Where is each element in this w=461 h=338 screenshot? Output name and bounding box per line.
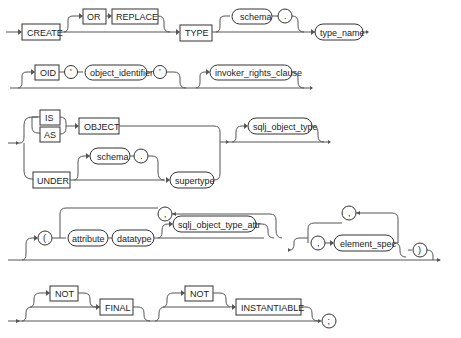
under-schema-label: schema xyxy=(97,152,129,162)
under-label: UNDER xyxy=(37,176,70,186)
create-label: CREATE xyxy=(27,28,63,38)
attribute-label: attribute xyxy=(72,234,105,244)
datatype-label: datatype xyxy=(117,234,152,244)
is-label: IS xyxy=(45,113,54,123)
row-create-type: CREATE OR REPLACE TYPE schema . type_nam… xyxy=(6,9,369,41)
final-label: FINAL xyxy=(105,303,131,313)
elem-comma-loop-label: , xyxy=(348,208,351,218)
attr-comma-loop-label: , xyxy=(164,209,167,219)
under-dot-label: . xyxy=(140,151,143,161)
quote-open-label: ' xyxy=(70,67,72,77)
invoker-rights-clause-label: invoker_rights_clause xyxy=(215,68,302,78)
rparen-label: ) xyxy=(418,245,421,255)
as-label: AS xyxy=(44,130,56,140)
instantiable-label: INSTANTIABLE xyxy=(241,303,304,313)
semicolon-label: ; xyxy=(328,316,331,326)
sqlj-object-type-label: sqlj_object_type xyxy=(253,122,318,132)
not-final-label: NOT xyxy=(55,289,75,299)
object-label: OBJECT xyxy=(84,122,120,132)
oid-label: OID xyxy=(40,68,57,78)
row-oid: OID ' object_identifier ' invoker_rights… xyxy=(10,65,313,90)
type-label: TYPE xyxy=(185,28,209,38)
dot-label: . xyxy=(284,11,287,21)
row-attributes: ( , attribute datatype sqlj_object_type_… xyxy=(8,206,441,262)
syntax-diagram: CREATE OR REPLACE TYPE schema . type_nam… xyxy=(0,0,461,338)
or-label: OR xyxy=(87,12,101,22)
not-instantiable-label: NOT xyxy=(190,289,210,299)
replace-label: REPLACE xyxy=(116,12,158,22)
object-identifier-label: object_identifier xyxy=(90,68,153,78)
row-is-as-under: IS AS OBJECT UNDER schema . supertype xyxy=(8,110,331,188)
elem-comma-label: , xyxy=(317,238,320,248)
sqlj-object-type-attr-label: sqlj_object_type_attr xyxy=(178,220,261,230)
lparen-label: ( xyxy=(43,233,46,243)
quote-close-label: ' xyxy=(159,67,161,77)
type-name-label: type_name xyxy=(320,28,365,38)
row-final-instantiable: NOT FINAL NOT INSTANTIABLE ; xyxy=(8,286,336,328)
supertype-label: supertype xyxy=(175,176,215,186)
schema-label: schema xyxy=(240,12,272,22)
element-spec-label: element_spec xyxy=(340,239,397,249)
